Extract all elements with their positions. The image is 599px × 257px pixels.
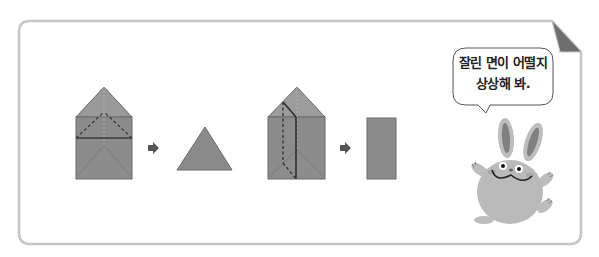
bubble-line-1: 잘린 면이 어떨지 (452, 52, 554, 73)
diagram-canvas (0, 0, 599, 257)
result-rectangle (367, 118, 396, 179)
worksheet-card: 잘린 면이 어떨지 상상해 봐. (0, 0, 599, 257)
bubble-line-2: 상상해 봐. (452, 73, 554, 94)
speech-bubble-text: 잘린 면이 어떨지 상상해 봐. (452, 52, 554, 94)
